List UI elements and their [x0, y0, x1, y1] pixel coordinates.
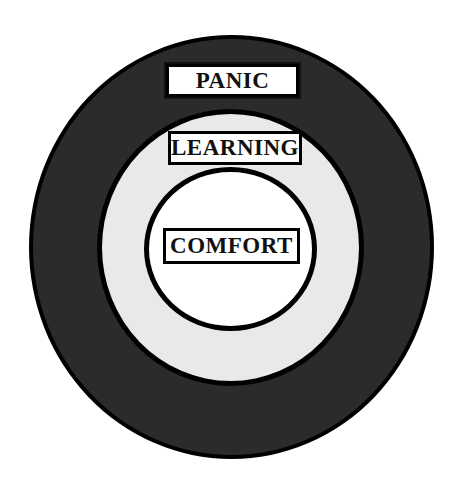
- learning-label: LEARNING: [168, 131, 302, 165]
- panic-label: PANIC: [166, 64, 299, 97]
- comfort-zone-diagram: PANIC LEARNING COMFORT: [0, 0, 464, 486]
- learning-label-text: LEARNING: [171, 135, 299, 161]
- comfort-label: COMFORT: [163, 228, 300, 264]
- panic-label-text: PANIC: [196, 68, 270, 94]
- comfort-label-text: COMFORT: [170, 233, 293, 259]
